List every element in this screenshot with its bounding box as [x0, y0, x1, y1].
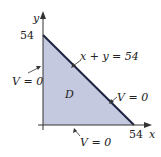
triangle-region-diagram: y x 54 54 D x + y = 54 V = 0 V = 0 V = 0 — [0, 0, 161, 157]
hypotenuse-condition: V = 0 — [117, 91, 148, 104]
y-tick-54: 54 — [20, 29, 34, 42]
left-edge-condition: V = 0 — [12, 75, 43, 88]
left-edge-arrow-icon — [36, 66, 41, 70]
y-axis-arrow-icon — [40, 11, 46, 19]
x-axis-label: x — [149, 128, 156, 141]
bottom-edge-condition: V = 0 — [80, 136, 111, 149]
hypotenuse-equation: x + y = 54 — [80, 50, 139, 63]
region-label: D — [64, 88, 74, 101]
y-axis-label: y — [32, 12, 40, 25]
x-tick-54: 54 — [129, 128, 143, 141]
left-edge-leader — [28, 68, 38, 73]
